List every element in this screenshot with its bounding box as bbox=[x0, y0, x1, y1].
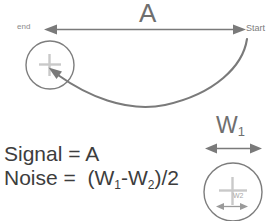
equation-signal: Signal = A bbox=[4, 143, 99, 164]
equation-noise-sub1: 1 bbox=[114, 178, 121, 192]
equation-noise-prefix: Noise = (W bbox=[4, 166, 114, 189]
equation-noise-mid: -W bbox=[121, 166, 148, 189]
w2-arrowhead-right bbox=[240, 203, 248, 210]
w2-plus-icon bbox=[219, 177, 247, 205]
label-w2-small: W2 bbox=[233, 192, 244, 199]
label-amplitude-a: A bbox=[139, 0, 156, 26]
label-w1-subscript: 1 bbox=[238, 124, 245, 139]
w1-arrowhead-right bbox=[250, 144, 262, 154]
label-start: Start bbox=[246, 24, 265, 33]
w1-arrowhead-left bbox=[205, 144, 217, 154]
equation-noise-sub2: 2 bbox=[148, 178, 155, 192]
diagram-canvas: end Start A W1 W2 Signal = A Noise = (W1… bbox=[0, 0, 267, 221]
label-end: end bbox=[17, 23, 30, 31]
equation-noise-suffix: )/2 bbox=[154, 166, 179, 189]
label-w1-letter: W bbox=[216, 112, 238, 138]
span-a-arrowhead-left bbox=[44, 25, 57, 35]
w1-double-arrow bbox=[205, 144, 262, 154]
trajectory-path bbox=[58, 39, 247, 107]
trajectory-curve bbox=[49, 39, 248, 107]
span-a-arrowhead-right bbox=[233, 25, 246, 35]
w2-arrowhead-left bbox=[216, 203, 224, 210]
equation-noise: Noise = (W1-W2)/2 bbox=[4, 167, 179, 188]
label-w1: W1 bbox=[216, 114, 245, 137]
